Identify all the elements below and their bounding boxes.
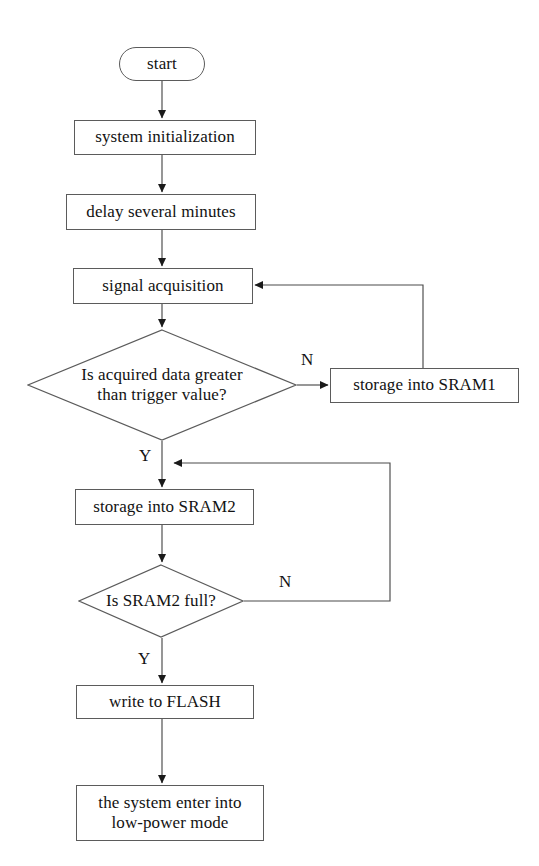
node-low-power-mode-label: the system enter into low-power mode (98, 793, 241, 833)
node-low-power-mode[interactable]: the system enter into low-power mode (76, 785, 264, 841)
node-decision-sram2-full[interactable]: Is SRAM2 full? (78, 564, 244, 638)
node-start-label: start (147, 54, 177, 74)
node-signal-acquisition[interactable]: signal acquisition (73, 268, 253, 304)
branch-label-trigger-no: N (301, 351, 313, 368)
node-write-to-flash[interactable]: write to FLASH (76, 685, 254, 719)
branch-label-full-no: N (279, 573, 291, 590)
node-system-initialization-label: system initialization (95, 127, 235, 147)
branch-label-full-yes: Y (138, 650, 150, 667)
node-signal-acquisition-label: signal acquisition (102, 276, 223, 296)
node-write-to-flash-label: write to FLASH (109, 692, 221, 712)
node-delay-several-minutes[interactable]: delay several minutes (66, 194, 256, 230)
node-storage-into-sram1[interactable]: storage into SRAM1 (330, 368, 519, 403)
node-storage-into-sram2-label: storage into SRAM2 (93, 497, 236, 517)
branch-label-trigger-yes: Y (139, 447, 151, 464)
node-decision-sram2-full-label: Is SRAM2 full? (106, 591, 216, 611)
node-delay-several-minutes-label: delay several minutes (86, 202, 235, 222)
node-start[interactable]: start (119, 47, 205, 81)
flowchart-canvas: start system initialization delay severa… (0, 0, 539, 866)
node-decision-trigger-value[interactable]: Is acquired data greater than trigger va… (27, 329, 297, 441)
node-decision-trigger-value-label: Is acquired data greater than trigger va… (81, 365, 242, 405)
node-storage-into-sram1-label: storage into SRAM1 (353, 375, 496, 395)
node-system-initialization[interactable]: system initialization (74, 120, 256, 155)
node-storage-into-sram2[interactable]: storage into SRAM2 (75, 489, 254, 525)
